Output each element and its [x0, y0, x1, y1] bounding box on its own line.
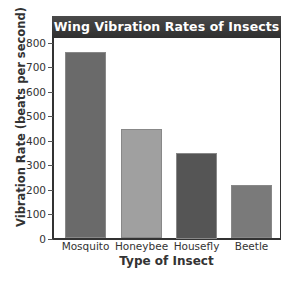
y-tick: [48, 116, 53, 117]
bar-honeybee: [121, 129, 162, 238]
y-tick: [48, 141, 53, 142]
y-tick: [48, 214, 53, 215]
y-tick: [48, 165, 53, 166]
y-tick: [48, 190, 53, 191]
y-tick: [48, 67, 53, 68]
x-axis-title: Type of Insect: [52, 254, 281, 268]
category-label: Honeybee: [112, 240, 172, 252]
y-tick-label: 0: [6, 233, 46, 245]
bar-beetle: [231, 185, 272, 239]
y-tick: [48, 239, 53, 240]
category-label: Beetle: [222, 240, 282, 252]
bar-housefly: [176, 153, 217, 239]
y-tick: [48, 43, 53, 44]
y-axis-line: [52, 38, 54, 239]
bar-mosquito: [65, 52, 106, 238]
chart-title: Wing Vibration Rates of Insects: [52, 16, 281, 38]
category-label: Mosquito: [56, 240, 116, 252]
y-axis-title: Vibration Rate (beats per second): [14, 57, 28, 227]
category-label: Housefly: [167, 240, 227, 252]
y-tick: [48, 92, 53, 93]
